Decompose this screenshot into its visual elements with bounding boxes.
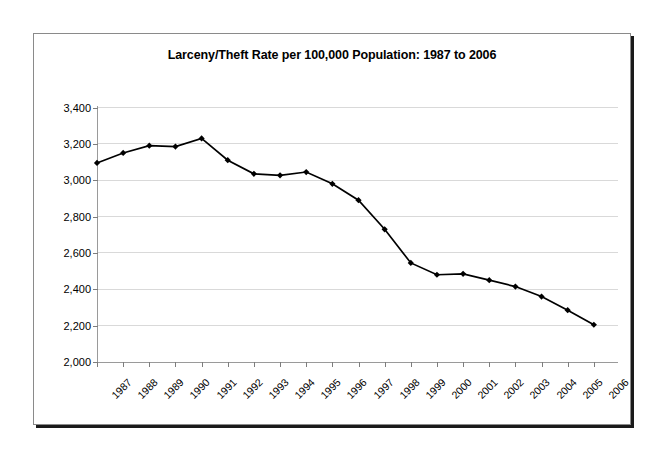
data-point-1987 [94, 160, 100, 166]
y-tick-mark-3000 [93, 180, 98, 181]
data-point-1989 [146, 143, 152, 149]
data-point-1995 [303, 169, 309, 175]
y-tick-mark-2800 [93, 217, 98, 218]
y-tick-mark-2000 [93, 362, 98, 363]
chart-frame: Larceny/Theft Rate per 100,000 Populatio… [33, 33, 631, 425]
series-markers [94, 135, 597, 328]
data-point-2002 [486, 277, 492, 283]
data-point-1993 [251, 171, 257, 177]
data-point-1994 [277, 172, 283, 178]
series-polyline [97, 138, 594, 324]
data-point-2004 [538, 293, 544, 299]
data-point-2003 [512, 283, 518, 289]
data-point-2000 [434, 272, 440, 278]
y-tick-mark-3200 [93, 144, 98, 145]
y-tick-mark-3400 [93, 108, 98, 109]
data-point-1988 [120, 150, 126, 156]
data-point-2001 [460, 271, 466, 277]
y-tick-mark-2400 [93, 289, 98, 290]
y-tick-mark-2200 [93, 326, 98, 327]
series-line-larceny-theft-rate [34, 34, 632, 426]
y-tick-mark-2600 [93, 253, 98, 254]
data-point-1990 [172, 143, 178, 149]
